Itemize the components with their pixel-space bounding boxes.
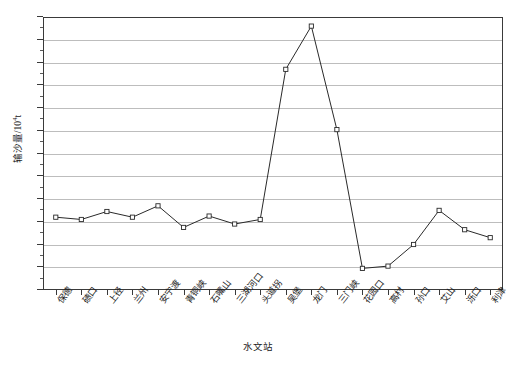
gridline bbox=[44, 154, 502, 155]
y-axis-minor-tick bbox=[40, 232, 43, 233]
y-axis-minor-tick bbox=[40, 50, 43, 51]
y-axis-title-unit: t bbox=[13, 115, 23, 118]
y-axis-minor-tick bbox=[40, 96, 43, 97]
y-axis-title-text: 输沙量/10 bbox=[13, 121, 23, 163]
gridline bbox=[44, 245, 502, 246]
gridline bbox=[44, 40, 502, 41]
y-axis-minor-tick bbox=[40, 187, 43, 188]
y-axis-tick bbox=[37, 153, 43, 154]
gridline bbox=[44, 85, 502, 86]
y-axis-tick bbox=[37, 107, 43, 108]
y-axis-tick bbox=[37, 62, 43, 63]
y-axis-tick bbox=[37, 84, 43, 85]
y-axis-minor-tick bbox=[40, 255, 43, 256]
y-axis-tick bbox=[37, 175, 43, 176]
y-axis-minor-tick bbox=[40, 73, 43, 74]
y-axis-minor-tick bbox=[40, 209, 43, 210]
gridline bbox=[44, 267, 502, 268]
y-axis-tick bbox=[37, 289, 43, 290]
y-axis-tick bbox=[37, 130, 43, 131]
gridline bbox=[44, 176, 502, 177]
y-axis-tick bbox=[37, 16, 43, 17]
y-axis-title: 输沙量/104t bbox=[10, 99, 24, 179]
y-axis-minor-tick bbox=[40, 27, 43, 28]
y-axis-title-exponent: 4 bbox=[11, 118, 19, 122]
y-axis-minor-tick bbox=[40, 164, 43, 165]
y-axis-tick bbox=[37, 244, 43, 245]
y-axis-tick bbox=[37, 198, 43, 199]
gridline bbox=[44, 108, 502, 109]
gridline bbox=[44, 131, 502, 132]
y-axis: 9876543210-1-2-3 bbox=[0, 0, 43, 366]
y-axis-tick bbox=[37, 221, 43, 222]
gridline bbox=[44, 222, 502, 223]
chart-canvas: 9876543210-1-2-3 输沙量/104t 保德碛口上径兰州安宁渡青铜峡… bbox=[0, 0, 515, 366]
y-axis-minor-tick bbox=[40, 141, 43, 142]
y-axis-minor-tick bbox=[40, 278, 43, 279]
y-axis-minor-tick bbox=[40, 118, 43, 119]
x-axis-title: 水文站 bbox=[0, 339, 515, 353]
plot-area bbox=[43, 17, 503, 290]
gridline bbox=[44, 63, 502, 64]
gridline bbox=[44, 199, 502, 200]
y-axis-tick bbox=[37, 266, 43, 267]
y-axis-tick bbox=[37, 39, 43, 40]
